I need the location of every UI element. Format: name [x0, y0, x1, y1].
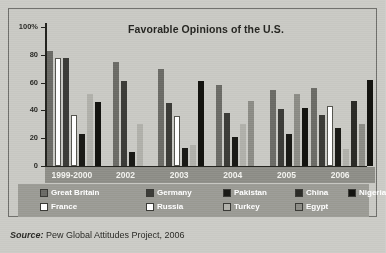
- y-tick-40: [41, 110, 46, 111]
- bar-russia-2003: [174, 116, 180, 166]
- y-tick-label-20: 20: [30, 134, 38, 142]
- legend-label: Germany: [157, 189, 192, 197]
- legend-item-great-britain[interactable]: Great Britain: [40, 189, 99, 197]
- bar-germany-2002: [121, 81, 127, 166]
- x-axis-label-2004: 2004: [206, 168, 260, 182]
- bar-great-britain-2003: [158, 69, 164, 166]
- bar-great-britain-2002: [113, 62, 119, 166]
- legend-item-nigeria[interactable]: Nigeria: [348, 189, 386, 197]
- bar-germany-1999-2000: [63, 58, 69, 166]
- bar-egypt-2004: [248, 101, 254, 166]
- bar-germany-2005: [278, 109, 284, 166]
- bar-great-britain-2004: [216, 85, 222, 166]
- legend-swatch-icon: [223, 203, 231, 211]
- legend-label: Egypt: [306, 203, 328, 211]
- bar-great-britain-2005: [270, 90, 276, 166]
- legend-item-germany[interactable]: Germany: [146, 189, 192, 197]
- legend-swatch-icon: [40, 203, 48, 211]
- bar-turkey-2006: [343, 149, 349, 166]
- bar-egypt-2005: [294, 94, 300, 166]
- x-axis-label-2002: 2002: [99, 168, 153, 182]
- bar-nigeria-1999-2000: [95, 102, 101, 166]
- chart-legend: Great BritainGermanyPakistanChinaNigeria…: [18, 184, 369, 217]
- y-tick-60: [41, 83, 46, 84]
- x-axis-label-2003: 2003: [152, 168, 206, 182]
- legend-swatch-icon: [40, 189, 48, 197]
- bar-turkey-1999-2000: [87, 94, 93, 166]
- plot-area: Favorable Opinions of the U.S. 020406080…: [45, 23, 367, 167]
- y-tick-80: [41, 55, 46, 56]
- bar-germany-2006: [319, 115, 325, 166]
- y-tick-label-60: 60: [30, 79, 38, 87]
- bar-germany-2003: [166, 103, 172, 166]
- legend-swatch-icon: [146, 189, 154, 197]
- bar-pakistan-2002: [129, 152, 135, 166]
- legend-label: Nigeria: [359, 189, 386, 197]
- bar-pakistan-2005: [286, 134, 292, 166]
- bar-great-britain-2006: [311, 88, 317, 166]
- bar-turkey-2004: [240, 124, 246, 166]
- bar-pakistan-1999-2000: [79, 134, 85, 166]
- bar-china-2006: [351, 101, 357, 166]
- bar-nigeria-2006: [367, 80, 373, 166]
- legend-label: France: [51, 203, 77, 211]
- bar-france-1999-2000: [55, 58, 61, 166]
- y-tick-label-0: 0: [34, 162, 38, 170]
- legend-item-egypt[interactable]: Egypt: [295, 203, 328, 211]
- legend-swatch-icon: [295, 189, 303, 197]
- chart-title: Favorable Opinions of the U.S.: [45, 23, 367, 35]
- legend-item-turkey[interactable]: Turkey: [223, 203, 260, 211]
- legend-swatch-icon: [223, 189, 231, 197]
- bar-nigeria-2003: [198, 81, 204, 166]
- y-tick-label-40: 40: [30, 106, 38, 114]
- source-prefix: Source:: [10, 230, 44, 240]
- bar-russia-2006: [327, 106, 333, 166]
- legend-item-china[interactable]: China: [295, 189, 328, 197]
- bar-pakistan-2004: [232, 137, 238, 166]
- legend-item-russia[interactable]: Russia: [146, 203, 183, 211]
- source-note: Source: Pew Global Attitudes Project, 20…: [10, 230, 185, 240]
- bar-turkey-2002: [137, 124, 143, 166]
- bar-great-britain-1999-2000: [47, 51, 53, 166]
- x-axis-label-1999-2000: 1999-2000: [45, 168, 99, 182]
- bar-russia-1999-2000: [71, 115, 77, 166]
- y-tick-20: [41, 138, 46, 139]
- x-axis-label-2006: 2006: [313, 168, 367, 182]
- y-tick-100: [41, 27, 46, 28]
- bar-nigeria-2005: [302, 108, 308, 166]
- legend-item-france[interactable]: France: [40, 203, 77, 211]
- source-text: Pew Global Attitudes Project, 2006: [44, 230, 185, 240]
- legend-label: Turkey: [234, 203, 260, 211]
- legend-swatch-icon: [348, 189, 356, 197]
- chart-panel: Favorable Opinions of the U.S. 020406080…: [8, 8, 377, 217]
- bar-turkey-2003: [190, 145, 196, 166]
- y-tick-label-100: 100%: [19, 23, 38, 31]
- legend-label: Pakistan: [234, 189, 267, 197]
- legend-label: Russia: [157, 203, 183, 211]
- bar-pakistan-2003: [182, 148, 188, 166]
- bar-egypt-2006: [359, 124, 365, 166]
- x-axis-label-2005: 2005: [260, 168, 314, 182]
- y-tick-label-80: 80: [30, 51, 38, 59]
- legend-swatch-icon: [295, 203, 303, 211]
- legend-swatch-icon: [146, 203, 154, 211]
- legend-item-pakistan[interactable]: Pakistan: [223, 189, 267, 197]
- legend-label: China: [306, 189, 328, 197]
- bar-pakistan-2006: [335, 128, 341, 166]
- bar-germany-2004: [224, 113, 230, 166]
- legend-label: Great Britain: [51, 189, 99, 197]
